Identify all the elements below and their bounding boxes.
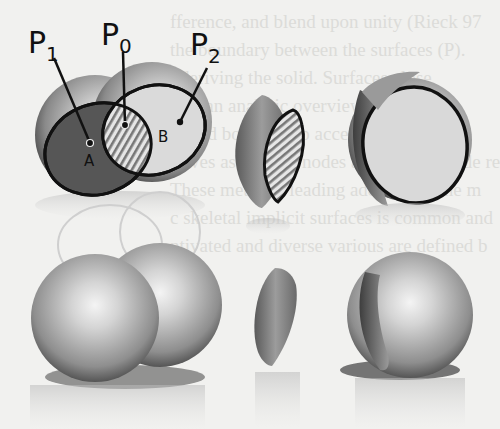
shell-piece-bottom bbox=[340, 252, 473, 428]
label-p0: P0 bbox=[101, 20, 132, 61]
label-region-b: B bbox=[158, 128, 168, 146]
label-region-a: A bbox=[84, 152, 94, 170]
label-p1: P1 bbox=[28, 28, 59, 69]
combined-spheres-bottom bbox=[30, 192, 222, 429]
label-p2: P2 bbox=[190, 30, 221, 71]
shell-piece-top bbox=[348, 72, 475, 227]
lens-piece-bottom bbox=[254, 268, 300, 427]
lens-piece-top bbox=[235, 95, 303, 234]
combined-spheres-top bbox=[32, 52, 218, 219]
